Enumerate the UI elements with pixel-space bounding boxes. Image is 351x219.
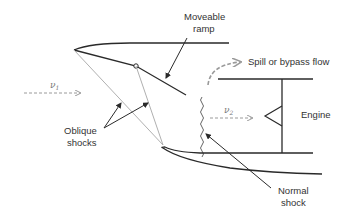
oblique-shocks-label-1: Oblique <box>64 125 97 136</box>
upper-cowl <box>74 43 229 50</box>
normal-shock-leader <box>206 134 271 188</box>
moveable-ramp-leader <box>166 38 187 78</box>
normal-shock <box>201 97 204 157</box>
engine-label: Engine <box>301 109 331 120</box>
moveable-ramp-label-1: Moveable <box>184 11 225 22</box>
v1-label: ν1 <box>50 80 59 91</box>
oblique-leader-1 <box>104 103 121 128</box>
oblique-leader-2 <box>104 103 148 128</box>
normal-shock-label-1: Normal <box>278 185 309 196</box>
oblique-shocks-label-2: shocks <box>67 137 97 148</box>
spill-flow-arrow <box>208 62 240 85</box>
engine-icon <box>265 106 282 126</box>
spill-flow-label: Spill or bypass flow <box>248 56 329 67</box>
lower-cowl-inner <box>165 147 313 153</box>
inlet-diagram: ν1 ν2 Spill or bypass flow Moveable ramp… <box>0 0 351 219</box>
moveable-ramp-label-2: ramp <box>193 23 215 34</box>
v2-label: ν2 <box>224 105 233 116</box>
oblique-shock-2 <box>136 66 163 145</box>
normal-shock-label-2: shock <box>281 197 306 208</box>
